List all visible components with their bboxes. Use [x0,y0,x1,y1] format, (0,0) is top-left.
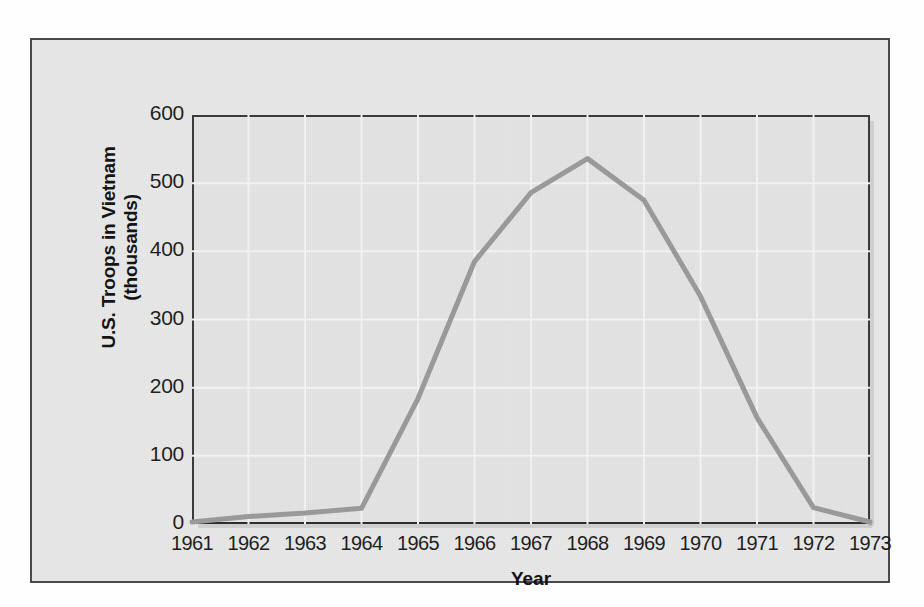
y-axis-tick-label: 0 [124,510,184,534]
chart-figure: U.S. Troops in Vietnam (thousands) 01002… [0,0,924,607]
line-chart-svg [192,115,870,524]
y-axis-tick-labels: 0100200300400500600 [120,115,184,524]
x-axis-tick-labels: 1961196219631964196519661967196819691970… [192,532,870,562]
y-axis-tick-label: 200 [124,374,184,398]
x-axis-tick-label: 1973 [835,532,905,555]
y-axis-tick-label: 400 [124,237,184,261]
x-axis-title: Year [192,568,870,590]
y-axis-tick-label: 100 [124,442,184,466]
y-axis-tick-label: 300 [124,306,184,330]
y-axis-tick-label: 600 [124,101,184,125]
figure-frame: U.S. Troops in Vietnam (thousands) 01002… [30,38,890,583]
y-axis-tick-label: 500 [124,169,184,193]
plot-wrapper [192,115,870,524]
y-axis-title-line-1: U.S. Troops in Vietnam [98,97,120,397]
